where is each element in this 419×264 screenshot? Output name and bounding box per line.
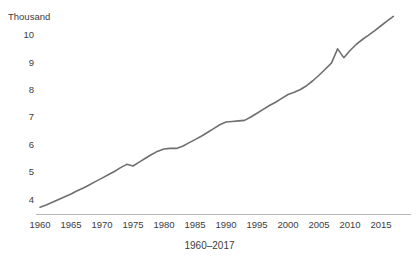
x-axis-tick: 2015 — [361, 219, 401, 230]
x-axis-caption: 1960–2017 — [0, 240, 419, 251]
data-series-line — [40, 16, 393, 207]
chart-container: Thousand 10 9 8 7 6 5 4 1960 1965 1970 1… — [0, 0, 419, 264]
